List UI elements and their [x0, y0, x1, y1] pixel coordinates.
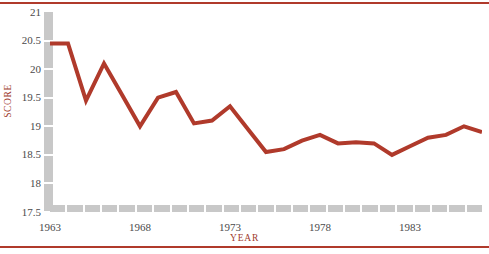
score-line-series [50, 43, 482, 154]
x-axis-tick-label: 1968 [129, 221, 151, 233]
x-axis-tick-label: 1983 [399, 221, 421, 233]
x-axis-tick-label: 1978 [309, 221, 331, 233]
y-axis-title: SCORE [3, 71, 13, 131]
x-axis-title: YEAR [0, 233, 489, 243]
x-axis-tick-label: 1963 [39, 221, 61, 233]
x-axis-tick-label: 1973 [219, 221, 241, 233]
chart-figure: 2120.52019.51918.51817.5 196319681973197… [0, 0, 489, 254]
score-line-plot [50, 12, 482, 212]
